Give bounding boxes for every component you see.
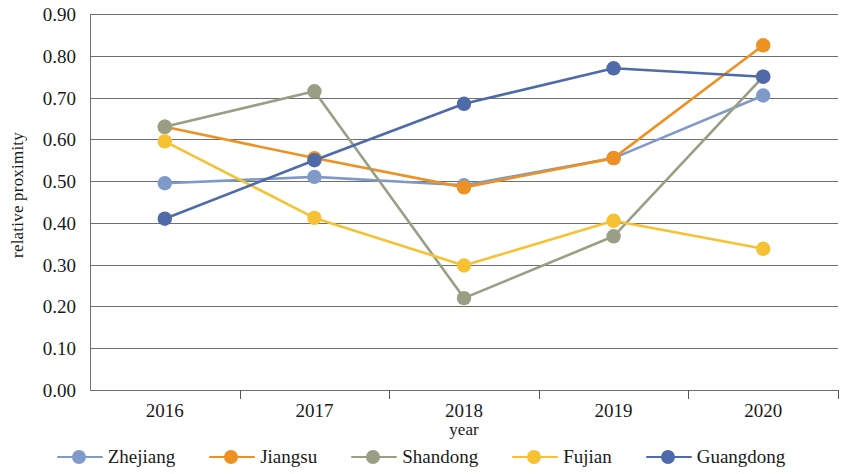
legend-label: Shandong — [402, 447, 478, 466]
y-axis-tick-label: 0.50 — [43, 172, 76, 191]
data-point — [457, 97, 471, 111]
x-axis-tick-mark — [688, 390, 689, 399]
legend-item-fujian[interactable]: Fujian — [512, 447, 612, 466]
x-axis-tick-label: 2018 — [445, 400, 483, 422]
line-chart-figure: relative proximity 0.000.100.200.300.400… — [0, 0, 842, 474]
x-axis-tick-label: 2020 — [744, 400, 782, 422]
data-point — [606, 151, 620, 165]
y-axis-tick-label: 0.10 — [43, 339, 76, 358]
data-point — [756, 38, 770, 52]
data-point — [457, 180, 471, 194]
legend-item-guangdong[interactable]: Guangdong — [646, 447, 786, 466]
legend-item-zhejiang[interactable]: Zhejiang — [57, 447, 176, 466]
x-axis-tick-label: 2019 — [595, 400, 633, 422]
data-point — [457, 291, 471, 305]
y-axis-tick-label: 0.00 — [43, 381, 76, 400]
y-axis-tick-label: 0.20 — [43, 297, 76, 316]
y-axis-tick-label: 0.40 — [43, 213, 76, 232]
legend-marker-icon — [57, 449, 103, 465]
series-layer — [90, 14, 838, 390]
legend-dot-icon — [366, 450, 380, 464]
x-axis-tick-mark — [389, 390, 390, 399]
data-point — [158, 134, 172, 148]
legend-dot-icon — [527, 450, 541, 464]
y-axis-tick-label: 0.80 — [43, 46, 76, 65]
legend-dot-icon — [661, 450, 675, 464]
data-point — [307, 170, 321, 184]
legend-dot-icon — [72, 450, 86, 464]
legend-label: Zhejiang — [108, 447, 176, 466]
data-point — [158, 176, 172, 190]
data-point — [307, 153, 321, 167]
data-point — [307, 211, 321, 225]
data-point — [457, 258, 471, 272]
legend-label: Fujian — [563, 447, 612, 466]
data-point — [756, 242, 770, 256]
series-line — [165, 45, 763, 187]
legend-marker-icon — [209, 449, 255, 465]
x-axis-tick-label: 2017 — [295, 400, 333, 422]
plot-area — [90, 14, 838, 390]
y-axis-tick-label: 0.70 — [43, 88, 76, 107]
y-axis-tick-label: 0.30 — [43, 255, 76, 274]
data-point — [606, 61, 620, 75]
series-fujian — [158, 134, 771, 273]
series-line — [165, 141, 763, 265]
legend-item-jiangsu[interactable]: Jiangsu — [209, 447, 317, 466]
chart-legend: ZhejiangJiangsuShandongFujianGuangdong — [0, 447, 842, 466]
x-axis-tick-labels: 20162017201820192020 — [90, 390, 838, 424]
series-jiangsu — [158, 38, 771, 195]
legend-marker-icon — [351, 449, 397, 465]
legend-marker-icon — [646, 449, 692, 465]
x-axis-tick-mark — [240, 390, 241, 399]
legend-item-shandong[interactable]: Shandong — [351, 447, 478, 466]
legend-label: Jiangsu — [260, 447, 317, 466]
legend-marker-icon — [512, 449, 558, 465]
data-point — [756, 70, 770, 84]
legend-label: Guangdong — [697, 447, 786, 466]
y-axis-tick-label: 0.60 — [43, 130, 76, 149]
y-axis-tick-label: 0.90 — [43, 5, 76, 24]
data-point — [158, 120, 172, 134]
x-axis-tick-mark — [838, 390, 839, 399]
x-axis-title: year — [90, 420, 838, 440]
data-point — [307, 84, 321, 98]
data-point — [756, 88, 770, 102]
y-axis-tick-labels: 0.000.100.200.300.400.500.600.700.800.90 — [0, 0, 82, 400]
data-point — [606, 214, 620, 228]
x-axis-tick-label: 2016 — [146, 400, 184, 422]
data-point — [606, 229, 620, 243]
x-axis-tick-mark — [539, 390, 540, 399]
series-line — [165, 68, 763, 218]
data-point — [158, 212, 172, 226]
legend-dot-icon — [224, 450, 238, 464]
